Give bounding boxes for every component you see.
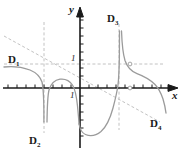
curve-group: [4, 31, 166, 135]
open-circle-marker-on-asymptote: [128, 62, 132, 66]
plot-canvas: [0, 0, 185, 159]
oblique-asymptote-line: [4, 36, 160, 122]
open-circle-marker-on-axis: [128, 86, 132, 90]
curve-label-d2-base: D: [29, 134, 37, 146]
curve-label-d4: D4: [150, 118, 161, 132]
curve-label-d2: D2: [29, 135, 40, 149]
y-axis-unit-label: 1: [71, 54, 76, 63]
curve-branch-d4: [122, 31, 167, 113]
asymptote-group: [4, 22, 164, 133]
curve-label-d3: D3: [107, 13, 118, 27]
y-axis-label: y: [69, 4, 74, 15]
x-axis-unit-label: 1: [70, 91, 75, 100]
curve-label-d1-sub: 1: [16, 60, 20, 68]
curve-label-d3-base: D: [107, 12, 115, 24]
curve-label-d1: D1: [8, 54, 19, 68]
curve-label-d4-sub: 4: [158, 124, 162, 132]
curve-label-d3-sub: 3: [115, 19, 119, 27]
curve-branch-d2-arch: [47, 79, 79, 124]
math-graph-figure: D1 D2 D3 D4 y x 1 1: [0, 0, 185, 159]
y-axis-arrow: [77, 7, 84, 17]
curve-branch-valley: [79, 31, 120, 135]
x-axis-label: x: [172, 90, 178, 101]
curve-label-d1-base: D: [8, 53, 16, 65]
curve-branch-d1: [4, 67, 44, 122]
curve-label-d4-base: D: [150, 117, 158, 129]
curve-label-d2-sub: 2: [37, 141, 41, 149]
marker-group: [128, 62, 132, 90]
